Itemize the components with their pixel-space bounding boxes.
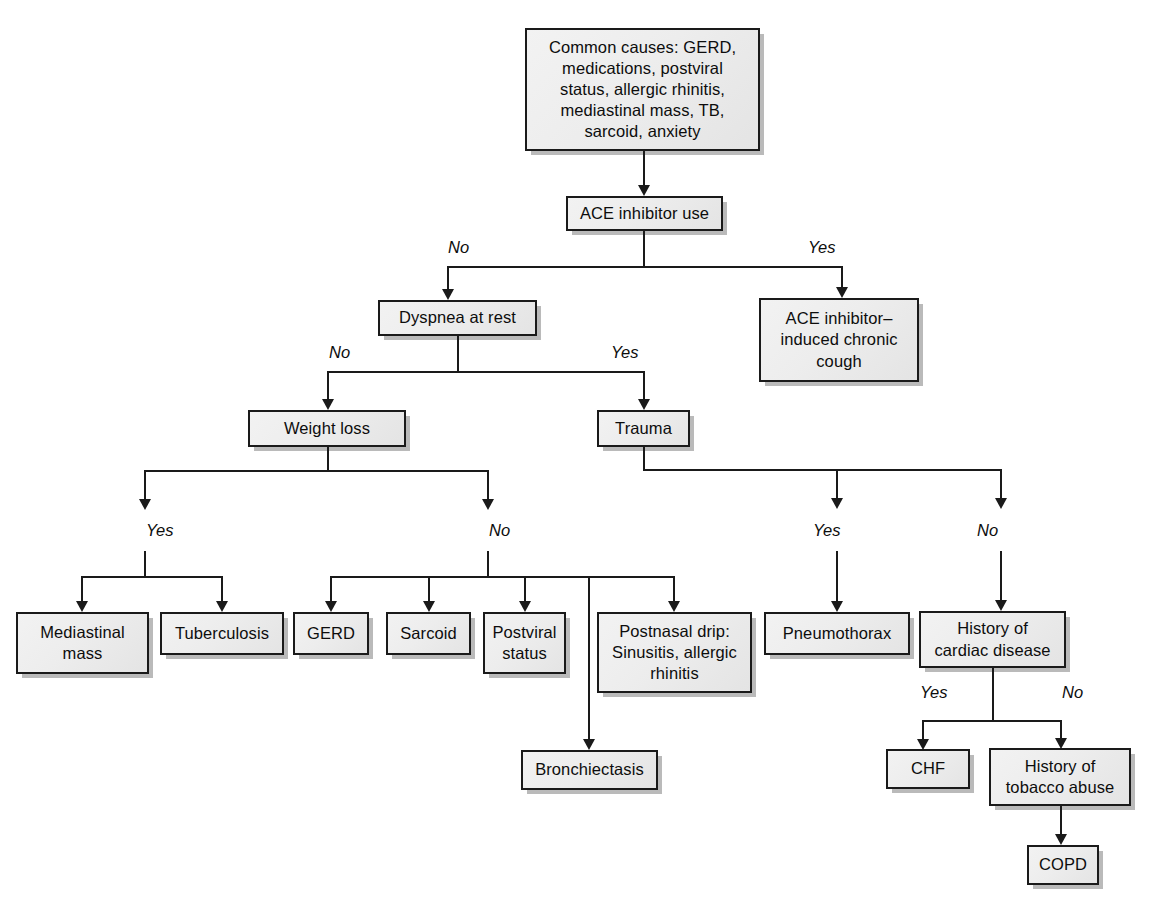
node-chf-label: CHF <box>894 758 962 779</box>
edge-copd-drop <box>1060 806 1062 834</box>
edge-dyspnea-stem <box>457 336 459 372</box>
arrowhead-tobacco-history <box>1055 738 1067 749</box>
node-tobacco-history: History of tobacco abuse <box>989 748 1131 806</box>
branch-label-cardiac-no: No <box>1062 683 1083 702</box>
node-weight-loss-label: Weight loss <box>256 418 398 439</box>
node-cardiac-history: History of cardiac disease <box>919 611 1066 668</box>
edge-trauma-yes-drop <box>836 469 838 498</box>
edge-postnasal-drop <box>673 576 675 601</box>
edge-ace-stem <box>643 231 645 267</box>
arrowhead-weight-loss <box>322 399 334 410</box>
node-postviral-status-label: Postviral status <box>491 622 558 664</box>
node-common-causes-label: Common causes: GERD, medications, postvi… <box>533 37 752 143</box>
node-tuberculosis: Tuberculosis <box>160 612 284 655</box>
node-mediastinal-mass-label: Mediastinal mass <box>24 622 141 664</box>
arrowhead-postviral-status <box>519 601 531 612</box>
edge-wlno-split-bar <box>330 576 675 578</box>
edge-tuberculosis-drop <box>221 576 223 601</box>
arrowhead-pneumothorax <box>831 601 843 612</box>
arrowhead-ace-induced-cough <box>836 287 848 298</box>
edge-chf-drop <box>922 720 924 739</box>
node-dyspnea-at-rest: Dyspnea at rest <box>378 300 537 336</box>
edge-wlno-stem <box>487 551 489 577</box>
branch-label-dyspnea-no: No <box>329 343 350 362</box>
edge-commoncauses-to-ace <box>643 151 645 185</box>
node-ace-induced-cough-label: ACE inhibitor– induced chronic cough <box>767 308 911 371</box>
edge-weightloss-stem <box>327 447 329 471</box>
branch-label-weightloss-no: No <box>489 521 510 540</box>
node-dyspnea-at-rest-label: Dyspnea at rest <box>386 307 529 328</box>
branch-label-dyspnea-yes: Yes <box>611 343 639 362</box>
edge-tobacco-drop <box>1060 720 1062 738</box>
edge-pneumothorax-drop <box>836 551 838 601</box>
node-cardiac-history-label: History of cardiac disease <box>927 618 1058 660</box>
node-chf: CHF <box>886 749 970 789</box>
edge-weightloss-no-drop <box>487 470 489 499</box>
branch-label-ace-yes: Yes <box>808 238 836 257</box>
arrowhead-postnasal-drip <box>668 601 680 612</box>
edge-mediastinal-drop <box>81 576 83 601</box>
arrowhead-trauma-no <box>995 498 1007 509</box>
node-ace-inhibitor-use-label: ACE inhibitor use <box>574 203 715 224</box>
node-trauma: Trauma <box>597 410 690 447</box>
edge-wlyes-split-bar <box>81 576 223 578</box>
edge-trauma-no-drop <box>1000 469 1002 498</box>
arrowhead-bronchiectasis <box>583 739 595 750</box>
edge-ace-yes-drop <box>841 266 843 287</box>
edge-cardiac-split-bar <box>922 720 1062 722</box>
edge-trauma-split-bar <box>643 469 1002 471</box>
edge-wlyes-stem <box>144 551 146 577</box>
node-bronchiectasis: Bronchiectasis <box>521 750 658 790</box>
arrowhead-copd <box>1055 834 1067 845</box>
node-postnasal-drip: Postnasal drip: Sinusitis, allergic rhin… <box>597 612 752 693</box>
node-trauma-label: Trauma <box>605 418 682 439</box>
node-copd-label: COPD <box>1035 854 1091 875</box>
edge-cardiac-stem <box>992 668 994 721</box>
edge-cardiac-drop <box>1000 551 1002 600</box>
node-bronchiectasis-label: Bronchiectasis <box>529 759 650 780</box>
node-gerd: GERD <box>293 612 369 655</box>
node-pneumothorax-label: Pneumothorax <box>772 623 902 644</box>
arrowhead-sarcoid <box>423 601 435 612</box>
branch-label-trauma-no: No <box>977 521 998 540</box>
node-pneumothorax: Pneumothorax <box>764 612 910 655</box>
arrowhead-weightloss-no <box>482 499 494 510</box>
arrowhead-cardiac-history <box>995 600 1007 611</box>
branch-label-cardiac-yes: Yes <box>920 683 948 702</box>
node-ace-inhibitor-use: ACE inhibitor use <box>566 196 723 231</box>
arrowhead-trauma-yes <box>831 498 843 509</box>
node-tobacco-history-label: History of tobacco abuse <box>997 756 1123 798</box>
branch-label-weightloss-yes: Yes <box>146 521 174 540</box>
node-sarcoid: Sarcoid <box>386 612 471 655</box>
branch-label-ace-no: No <box>448 238 469 257</box>
edge-gerd-drop <box>330 576 332 601</box>
node-common-causes: Common causes: GERD, medications, postvi… <box>525 28 760 151</box>
node-gerd-label: GERD <box>301 623 361 644</box>
node-ace-induced-cough: ACE inhibitor– induced chronic cough <box>759 298 919 382</box>
edge-trauma-stem <box>643 447 645 470</box>
edge-ace-no-drop <box>447 266 449 289</box>
edge-dyspnea-yes-drop <box>643 371 645 399</box>
branch-label-trauma-yes: Yes <box>813 521 841 540</box>
edge-ace-split-bar <box>447 266 843 268</box>
edge-bronchiectasis-drop <box>588 576 590 739</box>
arrowhead-gerd <box>325 601 337 612</box>
node-weight-loss: Weight loss <box>248 410 406 447</box>
node-postnasal-drip-label: Postnasal drip: Sinusitis, allergic rhin… <box>605 621 744 684</box>
edge-weightloss-yes-drop <box>144 470 146 499</box>
node-postviral-status: Postviral status <box>483 612 566 674</box>
edge-dyspnea-no-drop <box>327 371 329 399</box>
arrowhead-chf <box>917 739 929 750</box>
arrowhead-dyspnea-at-rest <box>442 289 454 300</box>
node-sarcoid-label: Sarcoid <box>394 623 463 644</box>
node-mediastinal-mass: Mediastinal mass <box>16 612 149 674</box>
arrowhead-weightloss-yes <box>139 499 151 510</box>
arrowhead-mediastinal-mass <box>76 601 88 612</box>
node-tuberculosis-label: Tuberculosis <box>168 623 276 644</box>
edge-sarcoid-drop <box>428 576 430 601</box>
arrowhead-trauma <box>638 399 650 410</box>
edge-dyspnea-split-bar <box>327 371 645 373</box>
arrowhead-ace-inhibitor-use <box>638 185 650 196</box>
node-copd: COPD <box>1027 845 1099 885</box>
arrowhead-tuberculosis <box>216 601 228 612</box>
